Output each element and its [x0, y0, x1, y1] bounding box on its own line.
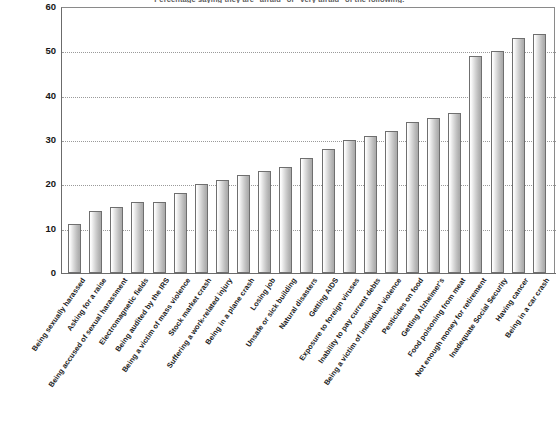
bar	[491, 51, 504, 273]
bar	[110, 207, 123, 274]
bar-chart: Percentage saying they are "afraid" or "…	[0, 0, 559, 433]
bar	[406, 122, 419, 273]
bar	[385, 131, 398, 273]
gridline-50	[62, 52, 556, 53]
bar	[237, 175, 250, 273]
bar	[131, 202, 144, 273]
y-tick-label-50: 50	[18, 45, 56, 56]
y-tick-label-20: 20	[18, 178, 56, 189]
plot-inner	[62, 8, 554, 273]
y-tick-label-60: 60	[18, 1, 56, 12]
bar	[68, 224, 81, 273]
bar	[322, 149, 335, 273]
bar	[174, 193, 187, 273]
bar	[279, 167, 292, 273]
bar	[343, 140, 356, 273]
x-axis-line	[61, 273, 556, 274]
y-tick-label-30: 30	[18, 134, 56, 145]
bar	[153, 202, 166, 273]
x-axis-labels: Being sexually harassedAsking for a rais…	[0, 276, 559, 433]
y-tick-label-10: 10	[18, 223, 56, 234]
bar	[364, 136, 377, 273]
bar	[258, 171, 271, 273]
bar	[533, 34, 546, 273]
bar	[448, 113, 461, 273]
bar	[216, 180, 229, 273]
bar	[195, 184, 208, 273]
bar	[300, 158, 313, 273]
chart-title: Percentage saying they are "afraid" or "…	[0, 0, 559, 3]
plot-area	[61, 7, 555, 273]
y-tick-label-40: 40	[18, 90, 56, 101]
bar	[469, 56, 482, 273]
bar	[512, 38, 525, 273]
bar	[89, 211, 102, 273]
bar	[427, 118, 440, 273]
